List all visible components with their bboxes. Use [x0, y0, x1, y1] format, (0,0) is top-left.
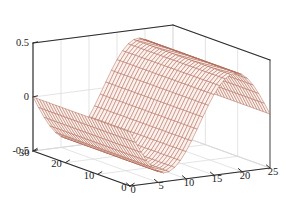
surface-plot-svg: -0.500.501020300510152025 — [0, 0, 287, 213]
tick-label-y: 20 — [51, 158, 62, 169]
tick-label-x: 20 — [240, 170, 251, 181]
tick-label-z: 0.5 — [16, 37, 29, 48]
tick-label-x: 10 — [184, 177, 195, 188]
tick-label-y: 10 — [84, 170, 95, 181]
tick-label-x: 0 — [130, 184, 135, 195]
tick-label-y: 0 — [121, 182, 126, 193]
tick-label-x: 5 — [158, 180, 163, 191]
tick-label-y: 30 — [19, 147, 30, 158]
tick-label-x: 15 — [212, 173, 223, 184]
tick-label-x: 25 — [268, 166, 279, 177]
tick-label-z: 0 — [24, 91, 29, 102]
surface-mesh — [33, 38, 270, 173]
figure-canvas: -0.500.501020300510152025 — [0, 0, 287, 213]
box-edge-top-back-left — [33, 25, 173, 43]
